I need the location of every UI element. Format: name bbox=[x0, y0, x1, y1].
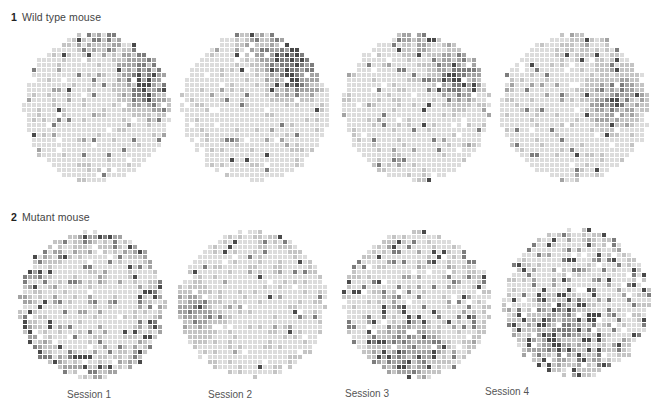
row-2-label: Mutant mouse bbox=[22, 211, 90, 223]
row-1-title: 1Wild type mouse bbox=[11, 11, 101, 23]
caption-session-4: Session 4 bbox=[447, 386, 567, 397]
mutant-session-1-map bbox=[18, 230, 168, 380]
row-2-number: 2 bbox=[11, 211, 17, 223]
caption-session-1: Session 1 bbox=[29, 389, 149, 400]
mutant-session-2-map bbox=[178, 230, 328, 380]
wild-type-session-2-map bbox=[180, 33, 330, 183]
mutant-session-3-map bbox=[342, 230, 492, 380]
caption-session-2: Session 2 bbox=[170, 389, 290, 400]
wild-type-session-4-map bbox=[500, 33, 650, 183]
mutant-session-4-map bbox=[502, 228, 652, 378]
row-1-label: Wild type mouse bbox=[22, 11, 101, 23]
wild-type-session-3-map bbox=[342, 33, 492, 183]
wild-type-session-1-map bbox=[22, 33, 172, 183]
row-1-number: 1 bbox=[11, 11, 17, 23]
caption-session-3: Session 3 bbox=[307, 388, 427, 399]
row-2-title: 2Mutant mouse bbox=[11, 211, 90, 223]
